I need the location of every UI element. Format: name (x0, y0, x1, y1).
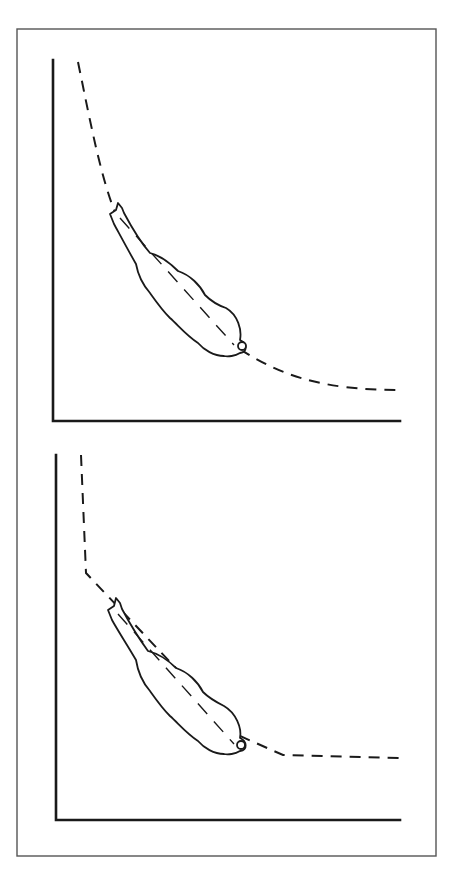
organism-midline (120, 218, 234, 345)
bottom-panel (56, 455, 400, 820)
organism-body-outline (110, 203, 246, 356)
top-panel-organism (110, 203, 246, 356)
top-panel (53, 60, 400, 421)
bottom-panel-trajectory-segments (81, 455, 400, 758)
organism-tail-knob (238, 342, 246, 350)
organism-tail-knob (237, 741, 245, 749)
top-panel-axes (53, 60, 400, 421)
diagram-figure (0, 0, 457, 869)
bottom-panel-organism (108, 598, 246, 754)
bottom-panel-axes (56, 455, 400, 820)
organism-body-outline (108, 598, 246, 754)
